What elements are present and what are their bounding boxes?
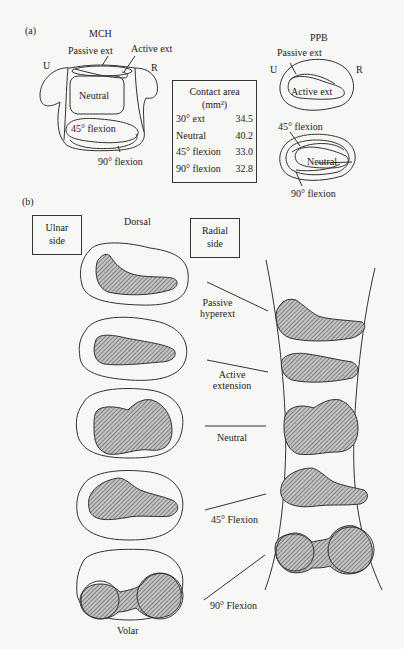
leader-45-flexion xyxy=(205,494,266,510)
volar-label: Volar xyxy=(117,625,138,636)
dorsal-label: Dorsal xyxy=(124,216,151,227)
table-title: Contact area xyxy=(173,86,256,99)
position-label-90-flexion: 90° Flexion xyxy=(210,600,257,611)
position-label-neutral: Neutral xyxy=(207,432,257,443)
contact-area-2 xyxy=(94,335,175,365)
ppb-ulnar-label: U xyxy=(270,64,277,75)
contact-area-3 xyxy=(94,400,172,455)
bone-contact-3 xyxy=(284,399,358,454)
bone-contact-5 xyxy=(275,526,372,574)
ppb-top-outer xyxy=(280,59,354,110)
mch-90-flexion-label: 90° flexion xyxy=(98,156,143,167)
mch-radial-label: R xyxy=(151,62,158,73)
leader-90-flexion xyxy=(204,555,265,600)
table-unit: (mm²) xyxy=(173,99,256,112)
contact-area-table: Contact area (mm²) 30° ext34.5 Neutral40… xyxy=(172,80,257,183)
mch-neutral-label: Neutral xyxy=(79,90,109,101)
ppb-title: PPB xyxy=(310,32,328,43)
panel-a-label: (a) xyxy=(25,25,36,36)
contact-area-4 xyxy=(89,478,178,520)
mch-title: MCH xyxy=(89,28,112,39)
table-row: 90° flexion32.8 xyxy=(173,161,256,178)
table-row: 45° flexion33.0 xyxy=(173,144,256,161)
ppb-45-flexion-label: 45° flexion xyxy=(278,121,323,132)
ppb-radial-label: R xyxy=(356,64,363,75)
table-row: 30° ext34.5 xyxy=(173,111,256,128)
mch-ulnar-label: U xyxy=(43,60,50,71)
position-label-passive-hyperext: Passive hyperext xyxy=(195,297,240,319)
ppb-90-flexion-label: 90° flexion xyxy=(291,188,336,199)
bone-contact-2 xyxy=(281,353,358,382)
table-row: Neutral40.2 xyxy=(173,128,256,145)
panel-b-label: (b) xyxy=(22,196,34,207)
position-label-45-flexion: 45° Flexion xyxy=(211,514,258,525)
mch-45-flexion-label: 45° flexion xyxy=(71,123,116,134)
mch-passive-ext-label: Passive ext xyxy=(68,45,113,56)
contact-area-1 xyxy=(96,254,177,294)
ulnar-side-box: Ulnar side xyxy=(32,215,82,255)
ppb-passive-ext-label: Passive ext xyxy=(277,47,322,58)
radial-side-box: Radial side xyxy=(190,218,240,258)
mch-active-ext-label: Active ext xyxy=(131,43,172,54)
mch-outline xyxy=(40,65,158,151)
ppb-neutral-label: Neutral xyxy=(307,156,337,167)
bone-contact-1 xyxy=(276,299,365,341)
contact-area-5 xyxy=(80,573,181,618)
ppb-active-ext-label: Active ext xyxy=(291,86,332,97)
position-label-active-extension: Active extension xyxy=(207,369,257,391)
